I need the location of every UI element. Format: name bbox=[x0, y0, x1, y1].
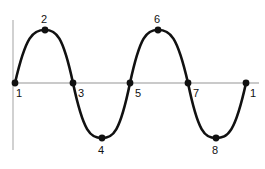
point-label: 5 bbox=[135, 88, 141, 99]
point-marker-zero-crossing-start bbox=[12, 80, 19, 87]
point-label: 6 bbox=[154, 14, 160, 25]
point-label: 1 bbox=[16, 88, 22, 99]
sine-wave-diagram bbox=[0, 0, 265, 169]
point-marker-trough bbox=[99, 135, 106, 142]
point-label: 8 bbox=[212, 145, 218, 156]
point-marker-peak bbox=[155, 27, 162, 34]
point-marker-zero-crossing bbox=[127, 80, 134, 87]
point-marker-zero-crossing-end bbox=[243, 80, 250, 87]
wave-points bbox=[12, 27, 250, 142]
point-marker-zero-crossing bbox=[185, 80, 192, 87]
point-label: 3 bbox=[78, 88, 84, 99]
point-label: 7 bbox=[193, 88, 199, 99]
point-marker-zero-crossing bbox=[70, 80, 77, 87]
point-marker-peak bbox=[42, 27, 49, 34]
point-marker-trough bbox=[213, 135, 220, 142]
point-label: 2 bbox=[41, 14, 47, 25]
point-label: 1 bbox=[250, 88, 256, 99]
point-label: 4 bbox=[98, 145, 104, 156]
